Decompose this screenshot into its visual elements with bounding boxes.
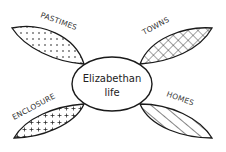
- homes-label: HOMES: [165, 89, 195, 107]
- center-title-line1: Elizabethan: [83, 73, 141, 84]
- branch-homes: HOMES: [140, 89, 212, 138]
- homes-leaf: [140, 104, 212, 138]
- center-node: Elizabethan life: [72, 57, 152, 111]
- branch-pastimes: PASTIMES: [12, 10, 84, 64]
- center-ellipse: [72, 57, 152, 111]
- center-title-line2: life: [104, 87, 119, 98]
- pastimes-leaf: [12, 27, 84, 64]
- branch-enclosure: ENCLOSURE: [11, 92, 84, 138]
- towns-label: TOWNS: [140, 15, 171, 37]
- mind-map: PASTIMES TOWNS ENCLOSURE HOMES Elizabeth…: [0, 0, 226, 152]
- branch-towns: TOWNS: [140, 15, 212, 64]
